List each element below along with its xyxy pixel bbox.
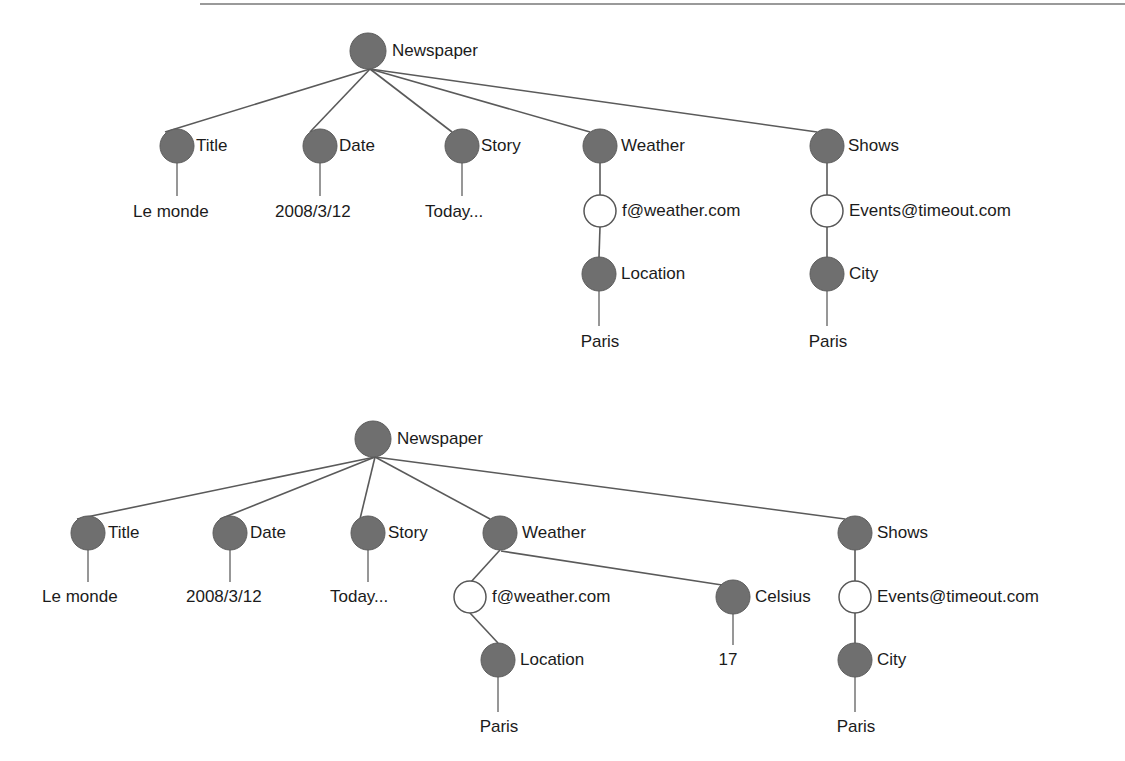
leaf-paris-city: Paris bbox=[837, 717, 876, 736]
figure-bottom-graph: Newspaper Title Date Story Weather Shows… bbox=[0, 380, 1125, 761]
edges-layer bbox=[165, 69, 827, 326]
node-weather[interactable] bbox=[583, 129, 617, 163]
node-newspaper[interactable] bbox=[355, 421, 391, 457]
node-label-shows: Shows bbox=[848, 136, 899, 155]
node-label-title: Title bbox=[108, 523, 140, 542]
edge-newspaper-shows bbox=[375, 457, 845, 519]
node-date[interactable] bbox=[303, 129, 337, 163]
node-title[interactable] bbox=[71, 516, 105, 550]
figure-top-graph: Newspaper Title Date Story Weather Shows… bbox=[0, 0, 1125, 380]
node-label-weather: Weather bbox=[522, 523, 586, 542]
scanned-page: Newspaper Title Date Story Weather Shows… bbox=[0, 0, 1125, 761]
leaf-paris-city: Paris bbox=[809, 332, 848, 351]
node-date[interactable] bbox=[213, 516, 247, 550]
node-location[interactable] bbox=[481, 643, 515, 677]
leaf-date-value: 2008/3/12 bbox=[186, 587, 262, 606]
node-label-shows: Shows bbox=[877, 523, 928, 542]
node-story[interactable] bbox=[445, 129, 479, 163]
edge-newspaper-weather bbox=[375, 457, 490, 519]
edge-newspaper-title bbox=[77, 457, 375, 519]
node-newspaper[interactable] bbox=[350, 33, 386, 69]
node-label-events: Events@timeout.com bbox=[849, 201, 1011, 220]
leaf-story-value: Today... bbox=[425, 202, 483, 221]
edge-newspaper-shows bbox=[370, 69, 817, 132]
edge-weather-fweather bbox=[470, 550, 500, 583]
node-story[interactable] bbox=[351, 516, 385, 550]
edge-newspaper-weather bbox=[370, 69, 590, 132]
node-label-city: City bbox=[877, 650, 907, 669]
node-label-weather: Weather bbox=[621, 136, 685, 155]
node-events-blank[interactable] bbox=[811, 195, 843, 227]
leaf-le-monde: Le monde bbox=[42, 587, 118, 606]
node-label-celsius: Celsius bbox=[755, 587, 811, 606]
edge-fweather-location bbox=[470, 613, 498, 643]
edge-newspaper-story bbox=[360, 457, 375, 519]
node-label-fweather: f@weather.com bbox=[622, 201, 740, 220]
node-shows[interactable] bbox=[838, 516, 872, 550]
edge-fweather-location bbox=[599, 227, 600, 257]
leaf-values-layer: Le monde 2008/3/12 Today... 17 Paris Par… bbox=[42, 587, 875, 736]
leaf-values-layer: Le monde 2008/3/12 Today... Paris Paris bbox=[133, 202, 847, 351]
node-events-blank[interactable] bbox=[839, 581, 871, 613]
node-location[interactable] bbox=[582, 257, 616, 291]
node-label-fweather: f@weather.com bbox=[492, 587, 610, 606]
node-label-newspaper: Newspaper bbox=[397, 429, 483, 448]
node-city[interactable] bbox=[838, 643, 872, 677]
node-label-story: Story bbox=[388, 523, 428, 542]
leaf-paris-location: Paris bbox=[480, 717, 519, 736]
edge-newspaper-date bbox=[220, 457, 375, 519]
nodes-layer: Newspaper Title Date Story Weather Shows… bbox=[160, 33, 1011, 291]
leaf-paris-location: Paris bbox=[581, 332, 620, 351]
node-label-city: City bbox=[849, 264, 879, 283]
leaf-celsius-value: 17 bbox=[719, 650, 738, 669]
node-celsius[interactable] bbox=[716, 580, 750, 614]
node-weather[interactable] bbox=[483, 516, 517, 550]
node-label-events: Events@timeout.com bbox=[877, 587, 1039, 606]
node-fweather-blank[interactable] bbox=[454, 581, 486, 613]
nodes-layer: Newspaper Title Date Story Weather Shows… bbox=[71, 421, 1039, 677]
node-shows[interactable] bbox=[810, 129, 844, 163]
node-label-date: Date bbox=[339, 136, 375, 155]
node-label-date: Date bbox=[250, 523, 286, 542]
node-label-story: Story bbox=[481, 136, 521, 155]
node-label-newspaper: Newspaper bbox=[392, 41, 478, 60]
leaf-story-value: Today... bbox=[330, 587, 388, 606]
node-fweather-blank[interactable] bbox=[584, 195, 616, 227]
node-label-title: Title bbox=[196, 136, 228, 155]
leaf-le-monde: Le monde bbox=[133, 202, 209, 221]
edge-weather-celsius bbox=[501, 551, 722, 585]
leaf-date-value: 2008/3/12 bbox=[275, 202, 351, 221]
node-label-location: Location bbox=[520, 650, 584, 669]
node-title[interactable] bbox=[160, 129, 194, 163]
node-city[interactable] bbox=[810, 257, 844, 291]
node-label-location: Location bbox=[621, 264, 685, 283]
